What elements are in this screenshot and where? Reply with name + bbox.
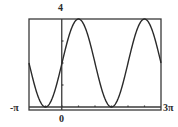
x-min-label: -π — [10, 103, 19, 113]
sine-curve — [29, 19, 161, 107]
x-zero-label: 0 — [59, 114, 64, 124]
x-max-label: 3π — [163, 103, 173, 113]
y-max-label: 4 — [58, 3, 63, 13]
function-plot — [0, 0, 178, 127]
